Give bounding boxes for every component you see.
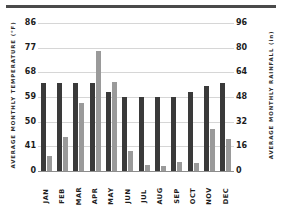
month-label-apr: APR bbox=[91, 188, 99, 205]
rainfall-bar-jun[interactable] bbox=[128, 151, 133, 171]
temperature-bar-sep[interactable] bbox=[171, 97, 176, 171]
month-cell-mar: MAR bbox=[71, 176, 87, 220]
bar-group-may bbox=[103, 23, 119, 171]
temperature-bar-jun[interactable] bbox=[122, 97, 127, 171]
month-cell-apr: APR bbox=[87, 176, 103, 220]
left-tick-50: 50 bbox=[25, 118, 36, 126]
rainfall-bar-jan[interactable] bbox=[47, 156, 52, 171]
right-tick-48: 48 bbox=[236, 93, 247, 101]
month-label-oct: OCT bbox=[189, 188, 197, 204]
temperature-bar-nov[interactable] bbox=[204, 86, 209, 171]
bar-group-sep bbox=[169, 23, 185, 171]
month-label-dec: DEC bbox=[222, 188, 230, 204]
left-tick-0: 0 bbox=[30, 167, 36, 175]
bar-group-apr bbox=[87, 23, 103, 171]
bar-group-aug bbox=[152, 23, 168, 171]
right-tick-96: 96 bbox=[236, 19, 247, 27]
left-tick-59: 59 bbox=[25, 93, 36, 101]
right-tick-16: 16 bbox=[236, 142, 247, 150]
month-cell-aug: AUG bbox=[152, 176, 168, 220]
plot-area bbox=[38, 23, 234, 172]
rainfall-bar-may[interactable] bbox=[112, 82, 117, 171]
month-cell-jun: JUN bbox=[120, 176, 136, 220]
month-label-sep: SEP bbox=[173, 188, 181, 204]
month-label-jan: JAN bbox=[42, 189, 50, 204]
bar-group-mar bbox=[71, 23, 87, 171]
bar-group-dec bbox=[218, 23, 234, 171]
temperature-bar-may[interactable] bbox=[106, 92, 111, 171]
climate-bar-chart: AVERAGE MONTHLY TEMPERATURE (°F) AVERAGE… bbox=[0, 0, 282, 222]
left-tick-41: 41 bbox=[25, 142, 36, 150]
month-cell-sep: SEP bbox=[169, 176, 185, 220]
month-cell-nov: NOV bbox=[201, 176, 217, 220]
bar-group-jul bbox=[136, 23, 152, 171]
bar-group-feb bbox=[54, 23, 70, 171]
temperature-bar-oct[interactable] bbox=[188, 92, 193, 171]
rainfall-bar-nov[interactable] bbox=[210, 129, 215, 171]
month-label-may: MAY bbox=[107, 187, 115, 204]
month-cell-jan: JAN bbox=[38, 176, 54, 220]
top-divider-rule bbox=[6, 5, 276, 8]
bar-group-nov bbox=[201, 23, 217, 171]
rainfall-bar-jul[interactable] bbox=[145, 165, 150, 171]
month-label-nov: NOV bbox=[205, 187, 213, 205]
left-tick-86: 86 bbox=[25, 19, 36, 27]
month-label-jul: JUL bbox=[140, 189, 148, 203]
bar-group-oct bbox=[185, 23, 201, 171]
right-axis-tick-labels: 9680644832160 bbox=[236, 20, 258, 172]
right-tick-64: 64 bbox=[236, 68, 247, 76]
month-label-aug: AUG bbox=[156, 187, 164, 204]
axis-baseline bbox=[38, 171, 234, 172]
right-tick-32: 32 bbox=[236, 118, 247, 126]
left-tick-68: 68 bbox=[25, 68, 36, 76]
right-tick-80: 80 bbox=[236, 44, 247, 52]
rainfall-bar-feb[interactable] bbox=[63, 137, 68, 171]
right-tick-0: 0 bbox=[236, 167, 242, 175]
month-cell-dec: DEC bbox=[218, 176, 234, 220]
rainfall-bar-oct[interactable] bbox=[194, 163, 199, 171]
right-axis-title: AVERAGE MONTHLY RAINFALL (in) bbox=[268, 20, 274, 170]
month-cell-may: MAY bbox=[103, 176, 119, 220]
temperature-bar-mar[interactable] bbox=[73, 83, 78, 171]
x-axis-month-labels: JANFEBMARAPRMAYJUNJULAUGSEPOCTNOVDEC bbox=[38, 176, 234, 220]
rainfall-bar-mar[interactable] bbox=[79, 103, 84, 171]
temperature-bar-dec[interactable] bbox=[220, 83, 225, 171]
temperature-bar-jul[interactable] bbox=[139, 97, 144, 171]
rainfall-bar-aug[interactable] bbox=[161, 166, 166, 171]
rainfall-bar-apr[interactable] bbox=[96, 51, 101, 171]
bar-groups bbox=[38, 23, 234, 171]
month-label-feb: FEB bbox=[58, 188, 66, 204]
month-label-mar: MAR bbox=[75, 187, 83, 205]
bar-group-jun bbox=[120, 23, 136, 171]
month-cell-jul: JUL bbox=[136, 176, 152, 220]
rainfall-bar-sep[interactable] bbox=[177, 162, 182, 171]
temperature-bar-jan[interactable] bbox=[41, 83, 46, 171]
left-axis-tick-labels: 8677685950410 bbox=[14, 20, 36, 172]
bar-group-jan bbox=[38, 23, 54, 171]
month-cell-feb: FEB bbox=[54, 176, 70, 220]
temperature-bar-apr[interactable] bbox=[90, 83, 95, 171]
rainfall-bar-dec[interactable] bbox=[226, 139, 231, 171]
temperature-bar-aug[interactable] bbox=[155, 97, 160, 171]
month-label-jun: JUN bbox=[124, 189, 132, 204]
left-tick-77: 77 bbox=[25, 44, 36, 52]
temperature-bar-feb[interactable] bbox=[57, 83, 62, 171]
month-cell-oct: OCT bbox=[185, 176, 201, 220]
